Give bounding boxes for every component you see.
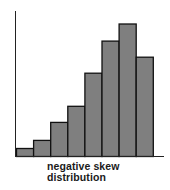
histogram-bars [17, 24, 154, 157]
histogram-bar [17, 149, 34, 157]
histogram-bar [102, 41, 119, 156]
histogram-bar [34, 140, 51, 156]
histogram-bar [85, 73, 102, 156]
histogram-bar [136, 57, 153, 156]
histogram-bar [68, 106, 85, 156]
histogram-bar [119, 24, 136, 157]
chart-caption: negative skew distribution [47, 161, 120, 183]
caption-line-2: distribution [47, 172, 120, 183]
histogram-bar [51, 122, 68, 156]
